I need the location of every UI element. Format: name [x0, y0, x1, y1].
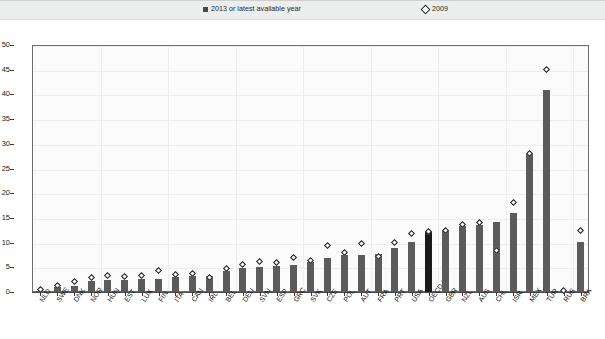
y-axis-tick-mark [10, 267, 14, 268]
y-axis-tick-mark [10, 193, 14, 194]
legend-label-2013: 2013 or latest available year [211, 4, 301, 14]
bar [442, 230, 449, 292]
chart-legend: 2013 or latest available year 2009 [0, 0, 605, 20]
open-diamond-icon [421, 4, 431, 14]
y-axis-tick-mark [10, 119, 14, 120]
gridline-vertical [573, 46, 574, 291]
bar [307, 262, 314, 292]
bar [358, 255, 365, 292]
gridline-vertical [101, 46, 102, 291]
bar [493, 222, 500, 292]
y-axis: 05101520253035404550 [0, 45, 32, 293]
y-axis-tick-mark [10, 45, 14, 46]
bar [239, 268, 246, 292]
y-axis-tick-mark [10, 292, 14, 293]
bar [138, 279, 145, 292]
bar [476, 225, 483, 292]
bar [256, 267, 263, 292]
y-axis-tick-label: 10 [0, 239, 10, 247]
bar [189, 276, 196, 292]
legend-label-2009: 2009 [432, 4, 448, 14]
bar [223, 271, 230, 292]
bar [543, 90, 550, 292]
gridline-vertical [303, 46, 304, 291]
y-axis-tick-mark [10, 70, 14, 71]
y-axis-tick-label: 0 [0, 288, 10, 296]
y-axis-tick-label: 50 [0, 41, 10, 49]
bar [459, 226, 466, 292]
y-axis-tick-label: 40 [0, 90, 10, 98]
bar [577, 242, 584, 292]
bar [324, 258, 331, 292]
y-axis-tick-label: 20 [0, 189, 10, 197]
bar [121, 280, 128, 292]
bar [155, 279, 162, 292]
y-axis-tick-label: 30 [0, 140, 10, 148]
legend-item-2009: 2009 [422, 4, 448, 14]
bar [341, 255, 348, 292]
filled-square-icon [203, 7, 208, 12]
y-axis-tick-mark [10, 144, 14, 145]
y-axis-tick-mark [10, 218, 14, 219]
chart-container: 2013 or latest available year 2009 05101… [0, 0, 605, 339]
gridline-vertical [168, 46, 169, 291]
bar [425, 231, 432, 292]
y-axis-tick-mark [10, 243, 14, 244]
y-axis-tick-label: 45 [0, 66, 10, 74]
gridline-vertical [438, 46, 439, 291]
gridline-vertical [236, 46, 237, 291]
y-axis-tick-label: 25 [0, 165, 10, 173]
bar [273, 266, 280, 292]
y-axis-tick-label: 15 [0, 214, 10, 222]
y-axis-tick-label: 5 [0, 263, 10, 271]
bar [526, 153, 533, 292]
plot-area [32, 45, 589, 292]
bar [290, 265, 297, 292]
y-axis-tick-label: 35 [0, 115, 10, 123]
y-axis-tick-mark [10, 94, 14, 95]
bar [408, 242, 415, 292]
bar [510, 213, 517, 292]
legend-item-2013: 2013 or latest available year [203, 4, 301, 14]
bar [104, 280, 111, 292]
gridline-vertical [371, 46, 372, 291]
bar [391, 248, 398, 292]
gridline-vertical [506, 46, 507, 291]
y-axis-tick-mark [10, 169, 14, 170]
